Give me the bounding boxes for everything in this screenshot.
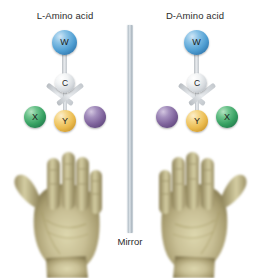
atom-c: C [55, 73, 75, 93]
molecule-d-amino-acid: W C Y X [131, 0, 261, 140]
atom-c: C [187, 73, 207, 93]
atom-x: X [216, 106, 238, 128]
atom-w: W [52, 30, 77, 55]
atom-x: X [24, 106, 46, 128]
atom-unlabeled [84, 106, 106, 128]
atom-y: Y [54, 110, 76, 132]
atom-y: Y [186, 110, 208, 132]
molecule-l-amino-acid: W C X Y [0, 0, 130, 140]
atom-unlabeled [156, 106, 178, 128]
right-hand-image [137, 146, 255, 278]
atom-w: W [184, 30, 209, 55]
left-hand-image [6, 146, 124, 278]
chirality-figure: L-Amino acid D-Amino acid Mirror W C X Y [0, 0, 261, 280]
